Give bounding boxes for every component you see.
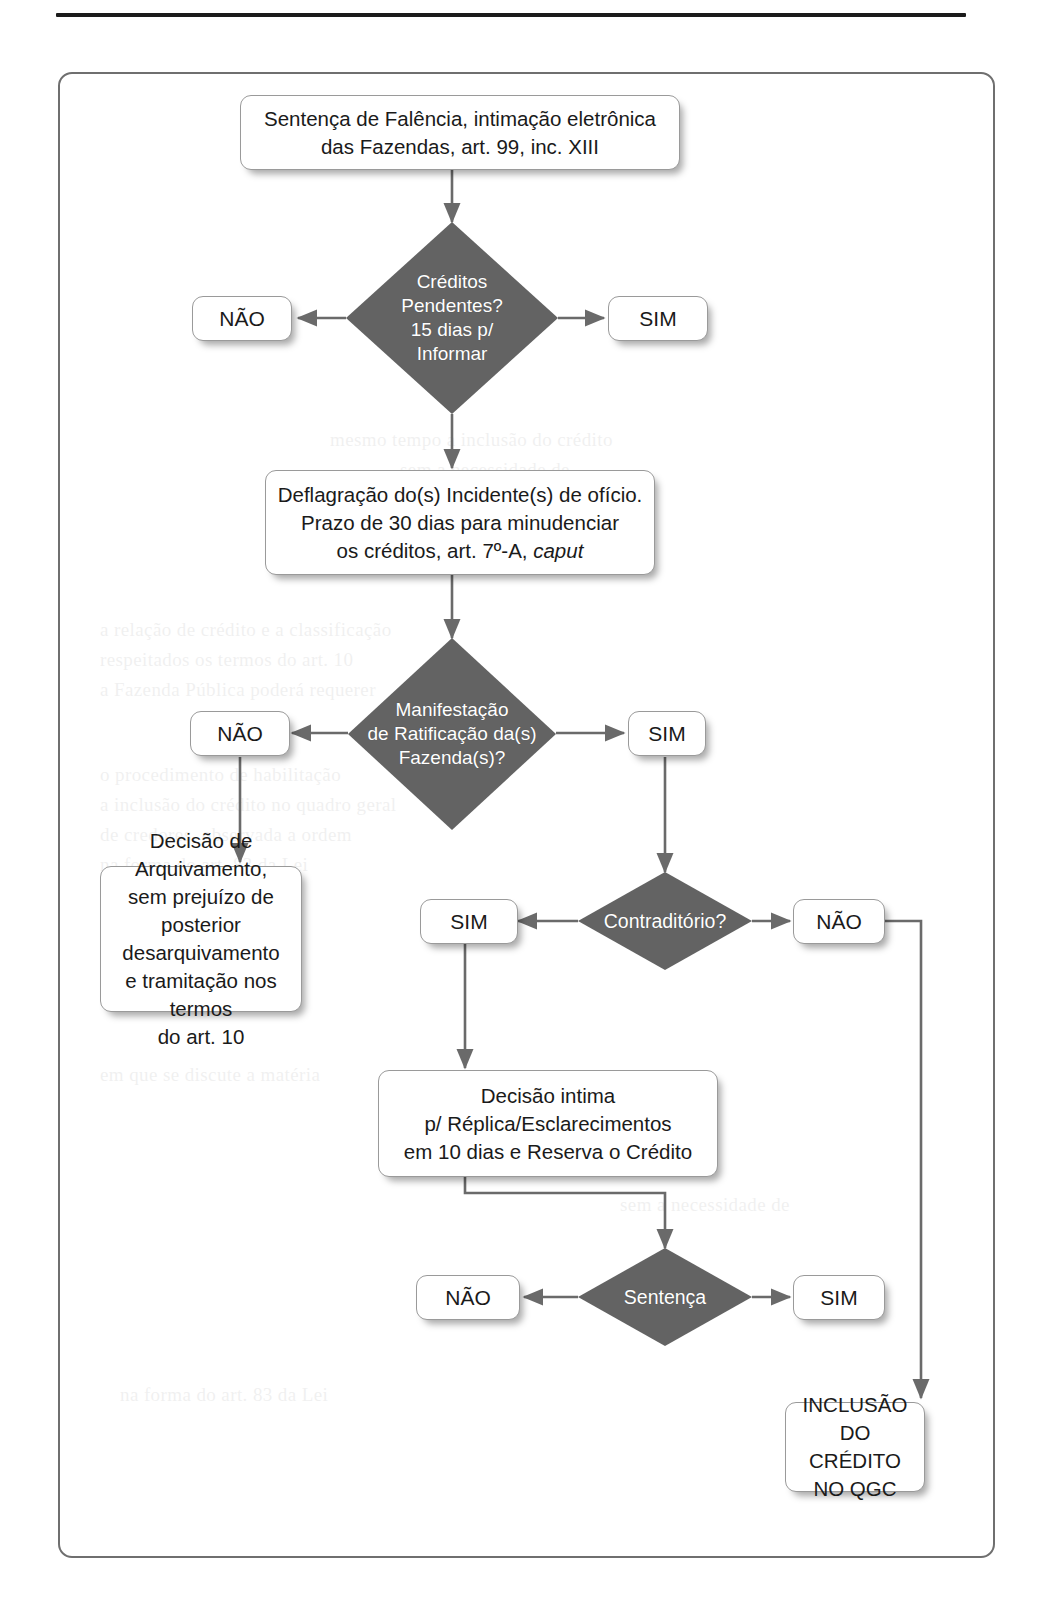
node-manifestacao-nao[interactable]: NÃO [190, 711, 290, 756]
node-manifestacao-nao-label: NÃO [217, 721, 263, 747]
node-arquivamento-line4: e tramitação nos termos [125, 969, 277, 1020]
node-inclusao-line1: INCLUSÃO [803, 1393, 908, 1416]
node-creditos-line1: Créditos [417, 271, 488, 292]
node-decisao-arquivamento[interactable]: Decisão de Arquivamento, sem prejuízo de… [100, 866, 302, 1012]
node-arquivamento-line5: do art. 10 [158, 1025, 245, 1048]
node-arquivamento-line2: sem prejuízo de [128, 885, 274, 908]
node-manifestacao-line3: Fazenda(s)? [399, 747, 506, 768]
node-creditos-line3: 15 dias p/ [411, 319, 493, 340]
node-deflagracao-line3a: os créditos, art. 7º-A, [337, 539, 534, 562]
page-canvas: mesmo tempo a inclusão do crédito sem a … [0, 0, 1054, 1618]
node-manifestacao-sim-label: SIM [648, 721, 685, 747]
node-contraditorio-label: Contraditório? [604, 910, 726, 932]
node-creditos-sim[interactable]: SIM [608, 296, 708, 341]
node-sentenca-falencia[interactable]: Sentença de Falência, intimação eletrôni… [240, 95, 680, 170]
node-creditos-line4: Informar [417, 343, 488, 364]
node-decisao-intima[interactable]: Decisão intima p/ Réplica/Esclarecimento… [378, 1070, 718, 1177]
node-creditos-sim-label: SIM [639, 306, 676, 332]
node-manifestacao-sim[interactable]: SIM [628, 711, 706, 756]
node-manifestacao-ratificacao-decision[interactable]: Manifestação de Ratificação da(s) Fazend… [348, 638, 556, 830]
node-sentenca-sim[interactable]: SIM [793, 1275, 885, 1320]
node-sentenca-nao-label: NÃO [445, 1285, 491, 1311]
node-contraditorio-sim[interactable]: SIM [420, 899, 518, 944]
node-sentenca-falencia-line1: Sentença de Falência, intimação eletrôni… [264, 107, 656, 130]
node-sentenca-decision[interactable]: Sentença [578, 1248, 752, 1346]
node-inclusao-line2: DO CRÉDITO [809, 1421, 901, 1472]
node-arquivamento-line1: Decisão de Arquivamento, [135, 829, 267, 880]
node-decisaointima-line2: p/ Réplica/Esclarecimentos [424, 1112, 671, 1135]
node-deflagracao-line2: Prazo de 30 dias para minudenciar [301, 511, 619, 534]
node-contraditorio-nao-label: NÃO [816, 909, 862, 935]
node-decisaointima-line3: em 10 dias e Reserva o Crédito [404, 1140, 692, 1163]
node-inclusao-credito-qgc[interactable]: INCLUSÃO DO CRÉDITO NO QGC [785, 1402, 925, 1492]
node-contraditorio-decision[interactable]: Contraditório? [578, 872, 752, 970]
node-creditos-nao-label: NÃO [219, 306, 265, 332]
node-sentenca-nao[interactable]: NÃO [416, 1275, 520, 1320]
header-rule [56, 13, 966, 17]
node-deflagracao-line1: Deflagração do(s) Incidente(s) de ofício… [278, 483, 643, 506]
node-deflagracao-incidentes[interactable]: Deflagração do(s) Incidente(s) de ofício… [265, 470, 655, 575]
node-manifestacao-line1: Manifestação [395, 699, 508, 720]
node-sentenca-falencia-line2: das Fazendas, art. 99, inc. XIII [321, 135, 599, 158]
node-sentenca-sim-label: SIM [820, 1285, 857, 1311]
node-inclusao-line3: NO QGC [813, 1477, 896, 1500]
node-creditos-pendentes-decision[interactable]: Créditos Pendentes? 15 dias p/ Informar [346, 222, 558, 414]
node-manifestacao-line2: de Ratificação da(s) [368, 723, 537, 744]
node-deflagracao-line3b: caput [533, 539, 583, 562]
node-creditos-line2: Pendentes? [401, 295, 502, 316]
node-arquivamento-line3: posterior desarquivamento [122, 913, 279, 964]
node-contraditorio-sim-label: SIM [450, 909, 487, 935]
node-contraditorio-nao[interactable]: NÃO [793, 899, 885, 944]
node-creditos-nao[interactable]: NÃO [192, 296, 292, 341]
node-decisaointima-line1: Decisão intima [481, 1084, 615, 1107]
node-sentenca-label: Sentença [624, 1286, 706, 1308]
